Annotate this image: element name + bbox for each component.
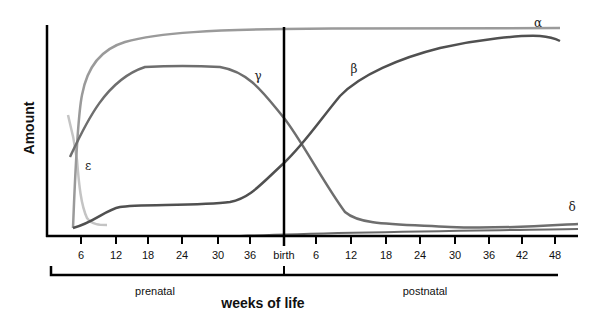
tick-label: 30 — [212, 249, 224, 261]
x-axis-label: weeks of life — [221, 295, 304, 311]
tick-label: 30 — [449, 249, 461, 261]
gamma-label: γ — [254, 69, 261, 83]
tick-label: 6 — [313, 249, 319, 261]
tick-label: 18 — [142, 249, 154, 261]
tick-label-birth: birth — [273, 249, 294, 261]
period-bracket — [51, 266, 558, 275]
postnatal-label: postnatal — [403, 285, 448, 297]
tick-label: 12 — [345, 249, 357, 261]
tick-label: 36 — [244, 249, 256, 261]
tick-label: 36 — [483, 249, 495, 261]
alpha-label: α — [534, 16, 542, 30]
alpha-curve — [73, 28, 560, 228]
beta-curve — [73, 36, 560, 228]
y-axis-label: Amount — [21, 102, 37, 155]
beta-label: β — [351, 62, 358, 76]
delta-label: δ — [568, 200, 575, 214]
tick-label: 24 — [414, 249, 426, 261]
tick-label: 24 — [176, 249, 188, 261]
tick-label: 48 — [549, 249, 561, 261]
tick-label: 18 — [380, 249, 392, 261]
gamma-curve — [70, 66, 578, 227]
epsilon-label: ε — [85, 159, 91, 173]
tick-label: 12 — [110, 249, 122, 261]
tick-label: 6 — [78, 249, 84, 261]
tick-label: 42 — [516, 249, 528, 261]
prenatal-label: prenatal — [135, 285, 175, 297]
